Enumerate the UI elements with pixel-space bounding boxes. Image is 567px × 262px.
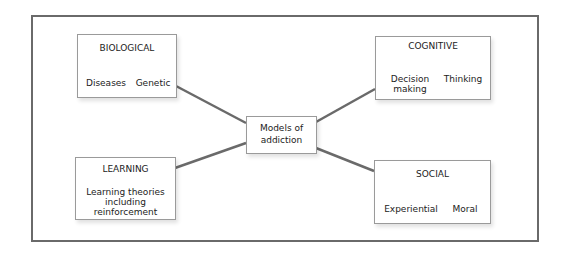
node-title: SOCIAL [375, 169, 490, 180]
node-cognitive: COGNITIVE Decision making Thinking [375, 36, 491, 100]
node-title: LEARNING [76, 164, 175, 175]
center-node: Models of addiction [246, 116, 317, 154]
node-learning: LEARNING Learning theories including rei… [75, 157, 176, 220]
node-title: COGNITIVE [376, 41, 490, 52]
node-title: BIOLOGICAL [78, 43, 176, 54]
leaf-genetic: Genetic [130, 78, 176, 89]
leaf-learning-theories-line3: reinforcement [76, 207, 175, 218]
node-social: SOCIAL Experiential Moral [374, 160, 491, 224]
leaf-thinking: Thinking [436, 74, 490, 85]
node-biological: BIOLOGICAL Diseases Genetic [77, 34, 177, 98]
center-label-line1: Models of [247, 123, 316, 134]
leaf-experiential: Experiential [381, 204, 441, 215]
leaf-diseases: Diseases [82, 78, 130, 89]
leaf-moral: Moral [443, 204, 487, 215]
leaf-decision-making-line2: making [382, 84, 438, 95]
center-label-line2: addiction [247, 135, 316, 146]
